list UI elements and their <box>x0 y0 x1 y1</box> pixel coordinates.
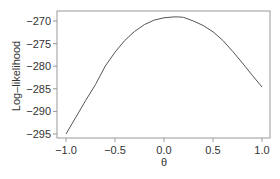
y-tick-label: −280 <box>26 60 51 72</box>
x-tick-label: 1.0 <box>254 144 269 156</box>
x-tick-label: −0.5 <box>104 144 126 156</box>
y-axis: −270−275−280−285−290−295 <box>26 15 57 140</box>
y-tick-label: −295 <box>26 128 51 140</box>
y-axis-label: Log–likelihood <box>10 41 22 111</box>
likelihood-curve <box>66 17 262 134</box>
x-axis: −1.0−0.50.00.51.0 <box>55 138 270 156</box>
x-axis-label: θ <box>161 156 167 168</box>
y-tick-label: −270 <box>26 15 51 27</box>
x-tick-label: 0.5 <box>205 144 220 156</box>
log-likelihood-chart: −270−275−280−285−290−295 −1.0−0.50.00.51… <box>0 0 280 179</box>
x-tick-label: −1.0 <box>55 144 77 156</box>
y-tick-label: −290 <box>26 105 51 117</box>
y-tick-label: −275 <box>26 38 51 50</box>
x-tick-label: 0.0 <box>156 144 171 156</box>
y-tick-label: −285 <box>26 83 51 95</box>
plot-frame <box>57 11 270 138</box>
